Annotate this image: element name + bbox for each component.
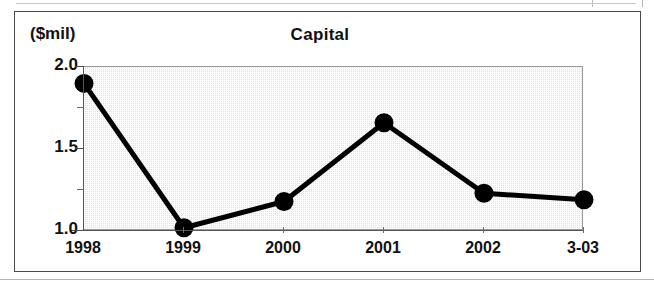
chart-title-text: Capital [291,25,350,44]
series-markers-capital [75,74,594,237]
y-tick-mark-major [75,230,84,231]
x-tick-label: 2001 [365,239,401,257]
x-tick-label: 3-03 [567,239,599,257]
data-point [375,113,394,132]
x-tick-mark [383,227,384,233]
plot-area [83,66,583,230]
chart-page: ($mil) Capital 2.01.51.0 199819992000200… [0,0,654,286]
x-tick-mark [183,227,184,233]
y-tick-label: 1.0 [54,219,78,239]
x-tick-label: 2000 [265,239,301,257]
x-tick-label: 1998 [65,239,101,257]
x-tick-mark [283,227,284,233]
data-point [275,192,294,211]
scan-artifact-rule-top [16,3,636,4]
data-point [475,184,494,203]
y-tick-label: 1.5 [54,137,78,157]
x-tick-label: 1999 [165,239,201,257]
series-line-capital [84,83,584,227]
plot-series-svg [84,67,584,231]
y-tick-mark-minor [77,107,84,108]
x-axis-spine [70,230,584,231]
x-tick-label: 2002 [465,239,501,257]
y-tick-label: 2.0 [54,55,78,75]
x-tick-mark [483,227,484,233]
data-point [575,190,594,209]
scan-artifact-rule-bottom [0,279,654,280]
chart-title: Capital [0,25,654,45]
y-tick-mark-major [75,148,84,149]
y-tick-mark-minor [77,189,84,190]
y-tick-mark-major [75,66,84,67]
x-axis-tick-group: 199819992000200120023-03 [0,239,654,265]
x-tick-mark [583,227,584,233]
data-point [175,218,194,237]
